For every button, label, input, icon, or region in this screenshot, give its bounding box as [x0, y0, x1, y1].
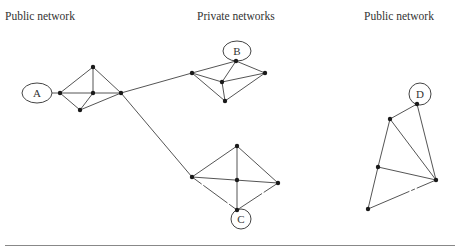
network-diagram: A B C	[0, 0, 462, 247]
endpoint-c-label: C	[237, 213, 244, 225]
right-public-network	[368, 104, 436, 209]
endpoint-b-label: B	[233, 45, 240, 57]
bottom-rule	[5, 245, 455, 246]
endpoint-a-label: A	[33, 87, 41, 99]
endpoint-d-label: D	[416, 88, 424, 100]
endpoint-b: B	[223, 41, 251, 61]
endpoint-a: A	[22, 83, 52, 103]
endpoint-c: C	[231, 209, 251, 229]
inter-network-links	[121, 73, 192, 177]
private-network-c	[192, 146, 278, 210]
left-public-network	[52, 65, 123, 112]
endpoint-d: D	[409, 83, 431, 105]
private-network-b	[192, 61, 265, 101]
